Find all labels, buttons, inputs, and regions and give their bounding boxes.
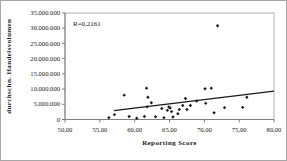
data-point <box>212 111 215 114</box>
chart-figure: 05.000.00010.000.00015.000.00020.000.000… <box>0 0 287 161</box>
y-tick-label: 35.000.000 <box>30 9 60 16</box>
data-point <box>241 106 244 109</box>
data-point <box>160 107 163 110</box>
data-point <box>107 116 110 119</box>
data-point <box>145 86 148 89</box>
x-axis-ticks: 50,0055,0060,0065,0070,0075,0080,00 <box>58 120 283 133</box>
data-point <box>210 86 213 89</box>
y-tick-label: 30.000.000 <box>30 24 60 31</box>
y-axis-title: durchschn. Handelsvolumen <box>5 19 13 114</box>
x-tick-label: 70,00 <box>197 126 213 133</box>
data-point <box>216 24 219 27</box>
data-point <box>189 104 192 107</box>
x-tick-label: 60,00 <box>127 126 143 133</box>
data-point <box>178 108 181 111</box>
data-point <box>127 115 130 118</box>
y-tick-label: 25.000.000 <box>30 40 60 47</box>
x-tick-label: 55,00 <box>92 126 108 133</box>
y-tick-label: 15.000.000 <box>30 70 60 77</box>
x-tick-label: 65,00 <box>162 126 178 133</box>
data-point <box>245 96 248 99</box>
data-point <box>113 113 116 116</box>
y-tick-label: 5.000.000 <box>34 100 61 107</box>
scatter-chart: 05.000.00010.000.00015.000.00020.000.000… <box>1 1 286 160</box>
data-point <box>204 102 207 105</box>
x-axis-title: Reporting Score <box>142 139 197 147</box>
trend-line <box>114 91 274 110</box>
r-value-annotation: R=0,2161 <box>73 20 101 28</box>
y-tick-label: 0 <box>57 116 61 123</box>
data-point <box>146 105 149 108</box>
data-point <box>162 116 165 119</box>
data-point <box>195 99 198 102</box>
y-tick-label: 10.000.000 <box>30 85 60 92</box>
data-point <box>166 109 169 112</box>
scatter-points <box>107 24 248 120</box>
data-point <box>171 115 174 118</box>
data-point <box>185 108 188 111</box>
x-tick-label: 80,00 <box>267 126 283 133</box>
data-point <box>223 106 226 109</box>
y-tick-label: 20.000.000 <box>30 55 60 62</box>
y-axis-ticks: 05.000.00010.000.00015.000.00020.000.000… <box>30 9 65 123</box>
x-tick-label: 50,00 <box>58 126 74 133</box>
data-point <box>150 101 153 104</box>
data-point <box>143 115 146 118</box>
data-point <box>184 97 187 100</box>
data-point <box>146 96 149 99</box>
data-point <box>154 115 157 118</box>
x-tick-label: 75,00 <box>232 126 248 133</box>
data-point <box>181 104 184 107</box>
data-point <box>123 93 126 96</box>
data-point <box>203 87 206 90</box>
data-point <box>176 112 179 115</box>
data-point <box>170 110 173 113</box>
